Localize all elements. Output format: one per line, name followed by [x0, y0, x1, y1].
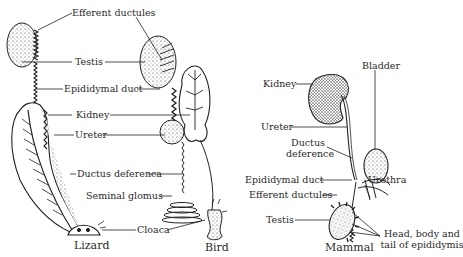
label-mammal-kidney: Kidney	[263, 78, 296, 89]
urogenital-diagram: Efferent ductules Testis Epididymal duct…	[0, 0, 463, 257]
label-mammal-epididymal-duct: Epididymal duct	[245, 174, 324, 185]
label-mammal-ductus-deference: Ductus deference	[286, 137, 330, 159]
label-mammal-testis: Testis	[266, 214, 294, 225]
label-efferent-ductules: Efferent ductules	[72, 7, 155, 18]
label-mammal-ureter: Ureter	[261, 121, 293, 132]
label-ureter: Ureter	[75, 129, 107, 140]
label-mammal-ductus-line1: Ductus	[286, 137, 330, 148]
lizard-testis	[7, 23, 37, 67]
diagram-drawing	[0, 0, 463, 257]
label-mammal-ductus-line2: deference	[286, 148, 330, 159]
label-mammal-epididymis: Head, body and tail of epididymis	[380, 228, 463, 250]
label-cloaca: Cloaca	[137, 224, 170, 235]
caption-mammal: Mammal	[325, 242, 374, 254]
label-seminal-glomus: Seminal glomus	[86, 190, 163, 201]
caption-lizard: Lizard	[74, 240, 109, 252]
label-mammal-bladder: Bladder	[362, 60, 400, 71]
label-ductus-deferens: Ductus deferenca	[77, 168, 162, 179]
label-kidney: Kidney	[76, 109, 109, 120]
label-epididymal-duct: Epididymal duct	[64, 83, 143, 94]
label-mammal-urethra: Urethra	[368, 174, 406, 185]
label-mammal-efferent-ductules: Efferent ductules	[249, 189, 332, 200]
bird-drawing	[140, 36, 227, 240]
label-mammal-epididymis-line2: tail of epididymis	[380, 239, 463, 250]
caption-bird: Bird	[205, 242, 229, 254]
label-mammal-epididymis-line1: Head, body and	[380, 228, 463, 239]
label-testis: Testis	[75, 56, 103, 67]
